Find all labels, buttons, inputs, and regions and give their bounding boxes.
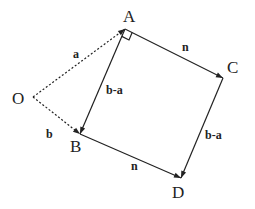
point-label-c: C: [227, 58, 238, 77]
vector-diagram: O A B C D a b b-a n b-a n: [0, 0, 255, 209]
vector-label-a: a: [73, 47, 79, 61]
vector-ob-line: [33, 97, 80, 134]
vector-label-ac: n: [182, 40, 189, 54]
point-label-d: D: [172, 183, 184, 202]
vector-label-cd: b-a: [205, 128, 222, 142]
vector-cd-arrowhead-icon: [181, 171, 186, 178]
vector-ac-arrowhead-icon: [216, 73, 223, 78]
vector-label-bd: n: [131, 159, 138, 173]
vector-label-b: b: [46, 127, 53, 141]
vector-ob-arrowhead-icon: [73, 128, 80, 134]
vector-ac-line: [125, 29, 223, 78]
vector-ab-arrowhead-icon: [80, 127, 85, 134]
point-label-b: B: [70, 137, 81, 156]
vector-label-ab: b-a: [106, 83, 123, 97]
vector-bd-arrowhead-icon: [174, 173, 181, 178]
vector-ab-line: [80, 29, 125, 134]
point-label-a: A: [123, 7, 136, 26]
point-label-o: O: [12, 89, 24, 108]
